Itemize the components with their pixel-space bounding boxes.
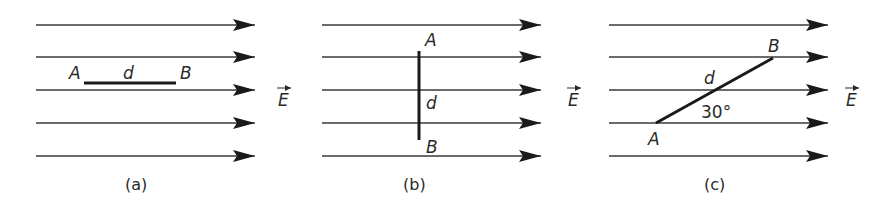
field-vector-label-c: E [845, 88, 859, 110]
field-lines-a [36, 25, 255, 156]
point-b-label: B [768, 36, 780, 56]
caption-c: (c) [704, 175, 725, 194]
svg-text:E: E [568, 90, 579, 110]
svg-text:E: E [278, 90, 289, 110]
length-label: d [123, 63, 134, 83]
length-label: d [426, 93, 437, 113]
caption-b: (b) [403, 175, 426, 194]
angle-label: 30° [701, 102, 731, 122]
field-vector-label-b: E [567, 88, 581, 110]
point-b-label: B [426, 137, 438, 157]
svg-text:E: E [846, 90, 857, 110]
panel-b: A d B E (b) [322, 25, 581, 194]
field-lines-c [609, 25, 828, 156]
panel-c: A d B 30° E (c) [609, 25, 859, 194]
point-a-label: A [424, 30, 437, 50]
point-b-label: B [180, 63, 192, 83]
panel-a: A d B E (a) [36, 25, 291, 194]
field-vector-label-a: E [277, 88, 291, 110]
point-a-label: A [68, 63, 81, 83]
electric-field-diagram: A d B E (a) A d B E (b) [0, 0, 884, 210]
point-a-label: A [647, 129, 660, 149]
length-label: d [704, 68, 715, 88]
caption-a: (a) [125, 175, 147, 194]
